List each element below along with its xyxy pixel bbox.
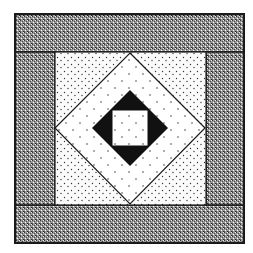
- right-band: [206, 52, 244, 205]
- quilt-block: [0, 0, 253, 253]
- center-square: [112, 110, 148, 146]
- top-band: [15, 14, 244, 52]
- bottom-band: [15, 205, 244, 243]
- left-band: [15, 52, 55, 205]
